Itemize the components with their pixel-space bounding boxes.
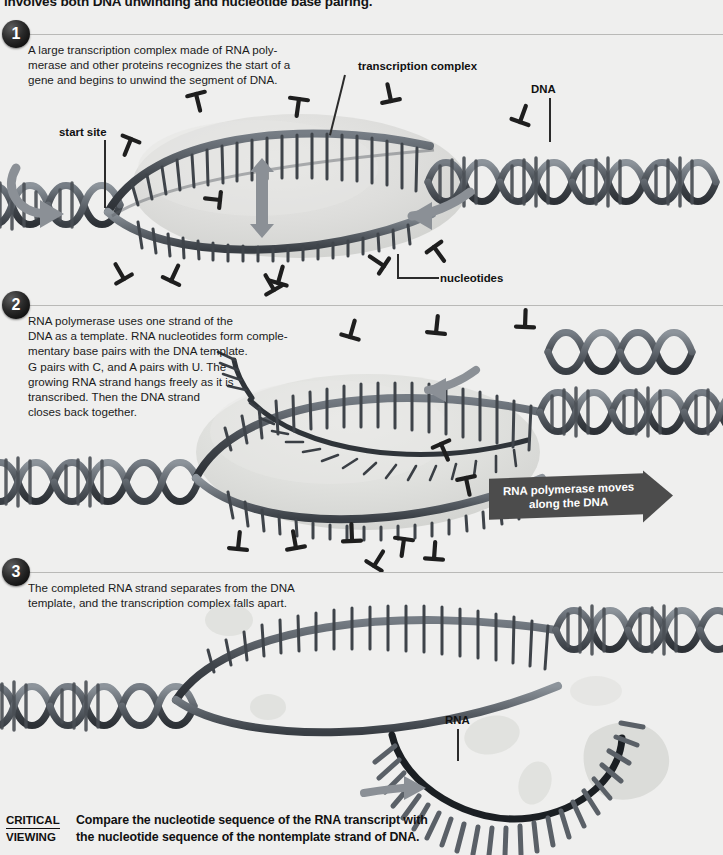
leader-rna (457, 729, 459, 761)
banner-label: RNA polymerase moves along the DNA (489, 473, 644, 519)
step-2-text: RNA polymerase uses one strand of the DN… (28, 313, 328, 419)
transcription-artwork (0, 0, 723, 855)
step-badge-2: 2 (2, 291, 30, 319)
label-transcription-complex: transcription complex (358, 60, 477, 72)
leader-nucleotides-v (397, 254, 399, 278)
leader-dna (549, 98, 551, 142)
critical-viewing-tag-line1: CRITICAL (6, 812, 60, 829)
critical-viewing-tag: CRITICAL VIEWING (6, 812, 70, 845)
step-rule-3 (26, 572, 723, 573)
step-rule-2 (26, 305, 723, 306)
leader-nucleotides-h (397, 277, 439, 279)
step-badge-1: 1 (2, 20, 30, 48)
label-nucleotides: nucleotides (440, 272, 503, 284)
step-1-text: A large transcription complex made of RN… (28, 42, 358, 88)
step-badge-3: 3 (2, 558, 30, 586)
label-dna: DNA (531, 83, 556, 95)
label-rna: RNA (445, 714, 470, 726)
critical-viewing-block: CRITICAL VIEWING Compare the nucleotide … (6, 812, 428, 845)
label-start-site: start site (59, 126, 106, 138)
rna-polymerase-direction-banner: RNA polymerase moves along the DNA (489, 470, 673, 522)
leader-start-site (104, 140, 106, 208)
step-rule-1 (26, 34, 723, 35)
step-3-text: The completed RNA strand separates from … (28, 580, 368, 610)
critical-viewing-question: Compare the nucleotide sequence of the R… (76, 812, 428, 845)
critical-viewing-tag-line2: VIEWING (6, 831, 56, 843)
banner-arrowhead-icon (643, 469, 673, 522)
